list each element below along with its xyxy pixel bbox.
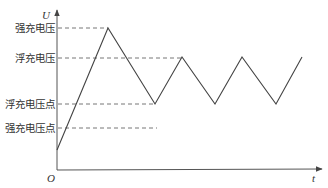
label-strong-charge-voltage: 强充电压 <box>15 22 55 34</box>
voltage-curve <box>57 28 302 150</box>
level-dash-lines <box>58 28 182 128</box>
x-axis-label: t <box>312 172 315 184</box>
x-axis <box>57 169 322 170</box>
origin-label: O <box>47 172 55 184</box>
label-strong-charge-voltage-point: 强充电压点 <box>5 122 55 134</box>
label-float-charge-voltage: 浮充电压 <box>15 52 55 64</box>
y-axis-label: U <box>42 9 50 21</box>
label-float-charge-voltage-point: 浮充电压点 <box>5 98 55 110</box>
charging-voltage-diagram: U t O 强充电压 浮充电压 浮充电压点 强充电压点 <box>0 0 328 188</box>
